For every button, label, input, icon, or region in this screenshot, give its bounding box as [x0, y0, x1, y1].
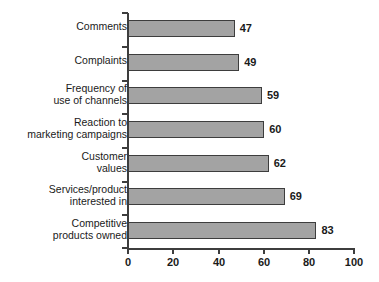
- bar: [128, 54, 239, 71]
- bar-value-label: 59: [267, 89, 279, 102]
- category-axis-tick: [122, 214, 128, 216]
- value-axis-tick-label: 40: [199, 256, 239, 269]
- bar: [128, 155, 269, 172]
- bar: [128, 87, 262, 104]
- value-axis-tick-label: 20: [153, 256, 193, 269]
- category-axis-tick: [122, 147, 128, 149]
- category-axis-tick: [122, 113, 128, 115]
- category-axis-tick: [122, 12, 128, 14]
- bar-chart: Comments 47 Complaints 49 Frequency of u…: [0, 0, 379, 282]
- category-label: Comments: [7, 21, 127, 33]
- value-axis-tick-label: 60: [244, 256, 284, 269]
- bar: [128, 188, 285, 205]
- value-axis-tick: [353, 249, 355, 254]
- bar-value-label: 62: [274, 157, 286, 170]
- bar: [128, 121, 264, 138]
- category-axis-tick: [122, 46, 128, 48]
- value-axis-tick: [263, 249, 265, 254]
- value-axis-tick: [218, 249, 220, 254]
- bar: [128, 20, 235, 37]
- value-axis-tick-label: 0: [108, 256, 148, 269]
- bar-value-label: 47: [240, 22, 252, 35]
- value-axis-line: [127, 248, 355, 250]
- category-label: Frequency of use of channels: [7, 83, 127, 106]
- value-axis-tick: [172, 249, 174, 254]
- bar-value-label: 69: [290, 190, 302, 203]
- value-axis-tick: [308, 249, 310, 254]
- category-label: Services/product interested in: [7, 184, 127, 207]
- category-label: Complaints: [7, 55, 127, 67]
- category-label: Customer values: [7, 151, 127, 174]
- bar: [128, 222, 316, 239]
- bar-value-label: 60: [269, 123, 281, 136]
- value-axis-tick-label: 100: [334, 256, 374, 269]
- bar-value-label: 49: [244, 56, 256, 69]
- value-axis-tick: [127, 249, 129, 254]
- value-axis-tick-label: 80: [289, 256, 329, 269]
- category-label: Competitive products owned: [7, 218, 127, 241]
- category-label: Reaction to marketing campaigns: [7, 117, 127, 140]
- bar-value-label: 83: [321, 224, 333, 237]
